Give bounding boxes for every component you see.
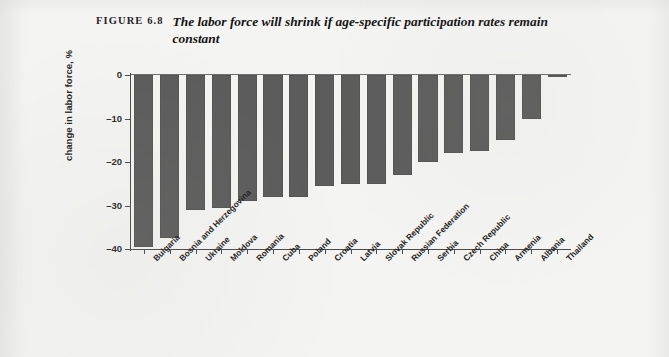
y-axis-ticks: 0–10–20–30–40 xyxy=(90,0,122,357)
y-tick-label: –10 xyxy=(92,114,122,123)
bar xyxy=(315,75,334,186)
bar xyxy=(289,75,308,197)
bar-chart: 0–10–20–30–40 BulgariaBosnia and Herzego… xyxy=(0,0,669,357)
x-category-label: Ukraine xyxy=(203,256,210,263)
y-tick-mark xyxy=(125,249,130,250)
x-category-label: Russian Federation xyxy=(409,256,416,263)
y-axis-line xyxy=(130,73,131,251)
x-category-label: Bosnia and Herzegovina xyxy=(177,256,184,263)
bar xyxy=(186,75,205,210)
x-category-label: Bulgaria xyxy=(151,256,158,263)
bar xyxy=(496,75,515,140)
bar xyxy=(367,75,386,184)
figure-page: FIGURE 6.8The labor force will shrink if… xyxy=(0,0,669,357)
bar xyxy=(548,75,567,77)
x-category-label: Slovak Republic xyxy=(383,256,390,263)
bar xyxy=(134,75,153,247)
y-tick-label: –30 xyxy=(92,201,122,210)
bar xyxy=(212,75,231,208)
x-category-label: Latvia xyxy=(358,256,365,263)
x-category-label: Poland xyxy=(306,256,313,263)
bar xyxy=(522,75,541,119)
x-category-label: Albania xyxy=(538,256,545,263)
x-tick-mark xyxy=(144,250,145,254)
y-axis-title: change in labor force, % xyxy=(63,31,74,181)
bar xyxy=(263,75,282,197)
y-tick-mark xyxy=(125,75,130,76)
bar xyxy=(238,75,257,201)
bar xyxy=(160,75,179,238)
x-category-label: Armenia xyxy=(512,256,519,263)
x-category-label: Croatia xyxy=(332,256,339,263)
x-category-label: Cuba xyxy=(280,256,287,263)
bar xyxy=(393,75,412,175)
bar xyxy=(444,75,463,153)
y-tick-label: –40 xyxy=(92,244,122,253)
x-category-label: Thailand xyxy=(564,256,571,263)
y-tick-label: –20 xyxy=(92,157,122,166)
x-category-label: Czech Republic xyxy=(461,256,468,263)
y-tick-mark xyxy=(125,206,130,207)
y-tick-mark xyxy=(125,119,130,120)
x-category-label: Moldova xyxy=(228,256,235,263)
bar xyxy=(341,75,360,184)
y-tick-mark xyxy=(125,162,130,163)
x-category-label: Romania xyxy=(254,256,261,263)
bar xyxy=(418,75,437,162)
bar xyxy=(470,75,489,151)
x-category-label: Serbia xyxy=(435,256,442,263)
x-category-label: China xyxy=(487,256,494,263)
y-tick-label: 0 xyxy=(92,70,122,79)
